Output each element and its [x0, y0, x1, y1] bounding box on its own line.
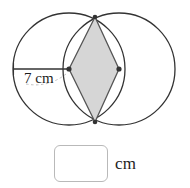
vertex-dot-top-intersection	[93, 15, 98, 20]
answer-unit-label: cm	[115, 155, 136, 172]
vertex-dot-left-center	[66, 66, 71, 71]
radius-label: 7 cm	[24, 70, 54, 86]
answer-input[interactable]	[54, 145, 108, 182]
vertex-dot-right-center	[116, 66, 121, 71]
diagram-page: 7 cm cm	[0, 0, 190, 188]
two-circles-rhombus-figure: 7 cm	[0, 0, 190, 136]
answer-row: cm	[0, 140, 190, 186]
vertex-dot-bottom-intersection	[93, 120, 98, 125]
